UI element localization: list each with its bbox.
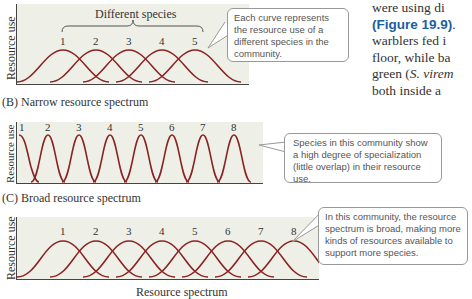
species-label-3: 3: [126, 35, 132, 47]
body-line-5: green (S. virem: [372, 66, 472, 83]
species-label-7: 7: [200, 121, 206, 133]
body-line-1: were using di: [372, 0, 472, 17]
panel-c-callout: In this community, the resource spectrum…: [318, 207, 468, 265]
panel-b-callout: Species in this community show a high de…: [284, 133, 442, 183]
species-label-1: 1: [60, 225, 66, 237]
bracket-label: Different species: [95, 7, 176, 22]
body-line-2-rest: .: [452, 17, 455, 32]
panel-b-callout-pointer: [257, 138, 287, 158]
body-line-3: warblers fed i: [372, 33, 472, 50]
species-label-5: 5: [192, 225, 198, 237]
species-label-1: 1: [19, 121, 25, 133]
panel-c-x-axis-label: Resource spectrum: [136, 285, 228, 299]
body-line-2: (Figure 19.9).: [372, 17, 472, 34]
species-label-4: 4: [159, 225, 165, 237]
panel-b-y-axis-label: Resource use: [4, 125, 16, 183]
species-label-5: 5: [138, 121, 144, 133]
body-line-4: floor, while ba: [372, 50, 472, 67]
species-label-7: 7: [258, 225, 264, 237]
panel-c-chart: 1 2 3 4 5 6 7 8: [16, 217, 319, 280]
species-label-3: 3: [126, 225, 132, 237]
panel-b-title: (B) Narrow resource spectrum: [2, 95, 148, 110]
panel-c-title: (C) Broad resource spectrum: [2, 191, 141, 206]
body-line-6: both inside a: [372, 83, 472, 100]
species-label-4: 4: [107, 121, 113, 133]
panel-b-chart: 1 2 3 4 5 6 7 8: [16, 122, 263, 184]
species-label-2: 2: [93, 225, 99, 237]
species-name-italic: S. virem: [410, 66, 454, 81]
species-label-3: 3: [76, 121, 82, 133]
species-label-8: 8: [231, 121, 237, 133]
species-label-2: 2: [93, 35, 99, 47]
species-label-6: 6: [225, 225, 231, 237]
species-label-1: 1: [60, 35, 66, 47]
body-text-excerpt: were using di (Figure 19.9). warblers fe…: [372, 0, 472, 99]
body-line-5-pre: green (: [372, 66, 410, 81]
species-label-4: 4: [159, 35, 165, 47]
panel-a-callout: Each curve represents the resource use o…: [227, 8, 349, 62]
figure-reference-link[interactable]: (Figure 19.9): [372, 17, 452, 32]
species-label-5: 5: [192, 35, 198, 47]
species-label-6: 6: [169, 121, 175, 133]
species-label-2: 2: [45, 121, 51, 133]
